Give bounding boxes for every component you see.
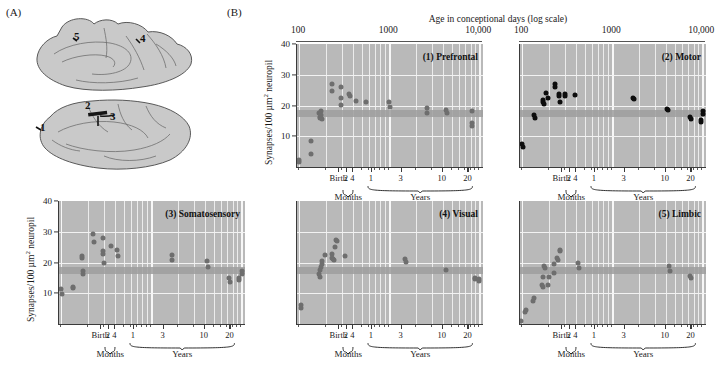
brace-label-months: Months [558,349,586,359]
x-axis-tick-mark [569,325,570,329]
x-axis-minor-tick [564,325,565,327]
chart-limbic: (5) LimbicBirth24131020 Months Years [0,0,726,375]
x-axis-minor-tick [602,325,603,327]
data-point [546,283,551,288]
gridline-horizontal [520,263,706,264]
data-point [519,318,524,323]
x-axis-tick-label: 2 [567,330,571,340]
x-axis-minor-tick [693,325,694,327]
data-point [541,274,546,279]
x-axis-tick-mark [665,325,666,329]
figure-root: (A) (B) [0,0,726,375]
gridline-horizontal [520,232,706,233]
data-point [552,270,557,275]
x-axis-tick-mark [575,325,576,329]
data-point [551,262,556,267]
x-axis-tick-label: 4 [573,330,577,340]
data-point [542,266,547,271]
x-axis-minor-tick [521,325,522,327]
x-axis-tick-mark [624,325,625,329]
x-axis-minor-tick [654,325,655,327]
brace-label-years: Years [633,349,653,359]
x-axis-minor-tick [674,325,675,327]
reference-band [520,267,706,274]
brace-years [590,338,696,347]
data-point [532,296,537,301]
x-axis-minor-tick [611,325,612,327]
gridline-horizontal [520,293,706,294]
x-axis-minor-tick [687,325,688,327]
data-point [540,285,545,290]
x-axis-minor-tick [697,325,698,327]
x-axis-minor-tick [584,325,585,327]
data-point [555,257,560,262]
x-axis-minor-tick [681,325,682,327]
x-axis-tick-mark [561,325,562,329]
data-point [524,307,529,312]
data-point [558,249,563,254]
data-point [547,274,552,279]
x-axis-minor-tick [591,325,592,327]
x-axis-tick-mark [594,325,595,329]
x-axis-minor-tick [638,325,639,327]
x-axis-minor-tick [607,325,608,327]
plot-title-limbic: (5) Limbic [659,209,701,219]
data-point [576,260,581,265]
x-axis-minor-tick [701,325,702,327]
x-axis-tick-mark [690,325,691,329]
x-axis-minor-tick [597,325,598,327]
plot-area-limbic [519,201,706,325]
data-point [667,269,672,274]
data-point [576,266,581,271]
data-point [667,263,672,268]
data-point [688,276,693,281]
x-axis-minor-tick [548,325,549,327]
